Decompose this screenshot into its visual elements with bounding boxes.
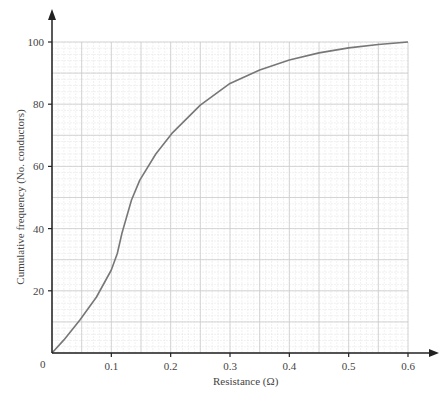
x-axis-title: Resistance (Ω): [213, 375, 279, 388]
y-axis-arrow-icon: [48, 9, 56, 20]
x-tick-label: 0.5: [342, 360, 356, 372]
axes: [48, 9, 439, 357]
y-axis-title: Cumulative frequency (No. conductors): [14, 109, 27, 285]
x-tick-label: 0.4: [282, 360, 296, 372]
y-tick-label: 20: [33, 285, 45, 297]
x-tick-label: 0.1: [104, 360, 118, 372]
y-tick-label: 80: [33, 98, 45, 110]
x-tick-label: 0.6: [401, 360, 415, 372]
origin-label: 0: [40, 358, 46, 370]
y-tick-label: 40: [33, 223, 45, 235]
y-tick-label: 60: [33, 160, 45, 172]
x-axis-arrow-icon: [429, 349, 439, 357]
cumulative-frequency-chart: 0.10.20.30.40.50.620406080100 0 Resistan…: [0, 0, 447, 402]
x-tick-label: 0.2: [164, 360, 178, 372]
x-tick-label: 0.3: [223, 360, 237, 372]
y-tick-label: 100: [28, 36, 45, 48]
